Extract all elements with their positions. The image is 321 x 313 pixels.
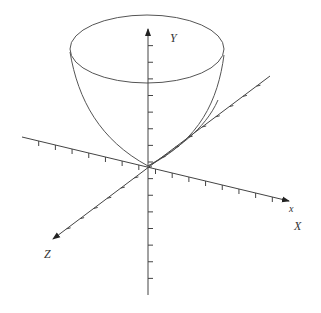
x-axis-label-upper: X [293,219,302,233]
z-axis [53,76,270,239]
x-axis-label-lower: x [288,203,294,214]
y-axis [148,29,153,295]
paraboloid-left-profile [70,52,148,166]
paraboloid-diagram: Y x X Z [0,0,321,313]
x-axis [22,137,289,202]
paraboloid-surface [70,15,224,166]
paraboloid-rim [70,15,224,83]
z-axis-label: Z [44,247,51,261]
y-axis-label: Y [170,31,178,45]
